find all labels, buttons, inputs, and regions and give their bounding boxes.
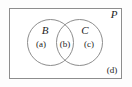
region-label-a: (a) (36, 40, 46, 49)
region-label-d: (d) (107, 66, 118, 75)
set-c-label: C (81, 25, 88, 36)
venn-diagram-figure: P B C (a) (b) (c) (d) (0, 0, 132, 87)
region-label-c: (c) (84, 40, 94, 49)
universal-set-label: P (111, 9, 118, 20)
set-b-label: B (42, 25, 49, 36)
region-label-b: (b) (60, 40, 71, 49)
